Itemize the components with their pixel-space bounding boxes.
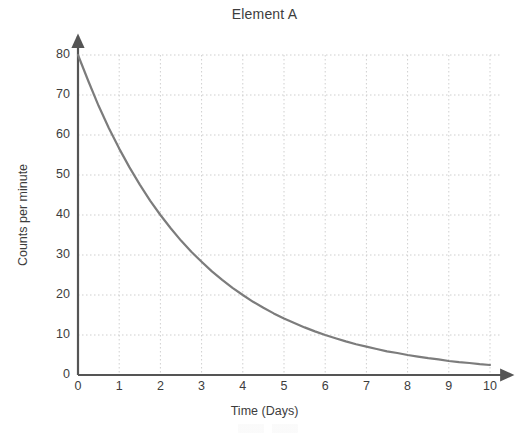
x-tick-6: 6 [312,379,338,393]
chart-container: Element A [0,0,529,433]
y-axis-label: Counts per minute [16,130,30,300]
y-tick-20: 20 [38,287,70,301]
x-axis-label: Time (Days) [0,404,529,418]
y-tick-10: 10 [38,327,70,341]
x-tick-4: 4 [230,379,256,393]
y-tick-40: 40 [38,207,70,221]
x-tick-7: 7 [353,379,379,393]
decay-curve [78,55,490,365]
x-tick-1: 1 [106,379,132,393]
x-tick-9: 9 [436,379,462,393]
x-tick-8: 8 [395,379,421,393]
y-tick-80: 80 [38,47,70,61]
x-tick-0: 0 [65,379,91,393]
y-tick-60: 60 [38,127,70,141]
x-tick-10: 10 [477,379,503,393]
grid-lines-horizontal [78,55,502,335]
x-tick-2: 2 [147,379,173,393]
page-bottom-cutoff-artifact [238,424,298,433]
y-tick-30: 30 [38,247,70,261]
chart-plot-area [0,0,529,433]
y-tick-50: 50 [38,167,70,181]
x-tick-3: 3 [189,379,215,393]
x-tick-5: 5 [271,379,297,393]
y-tick-70: 70 [38,87,70,101]
